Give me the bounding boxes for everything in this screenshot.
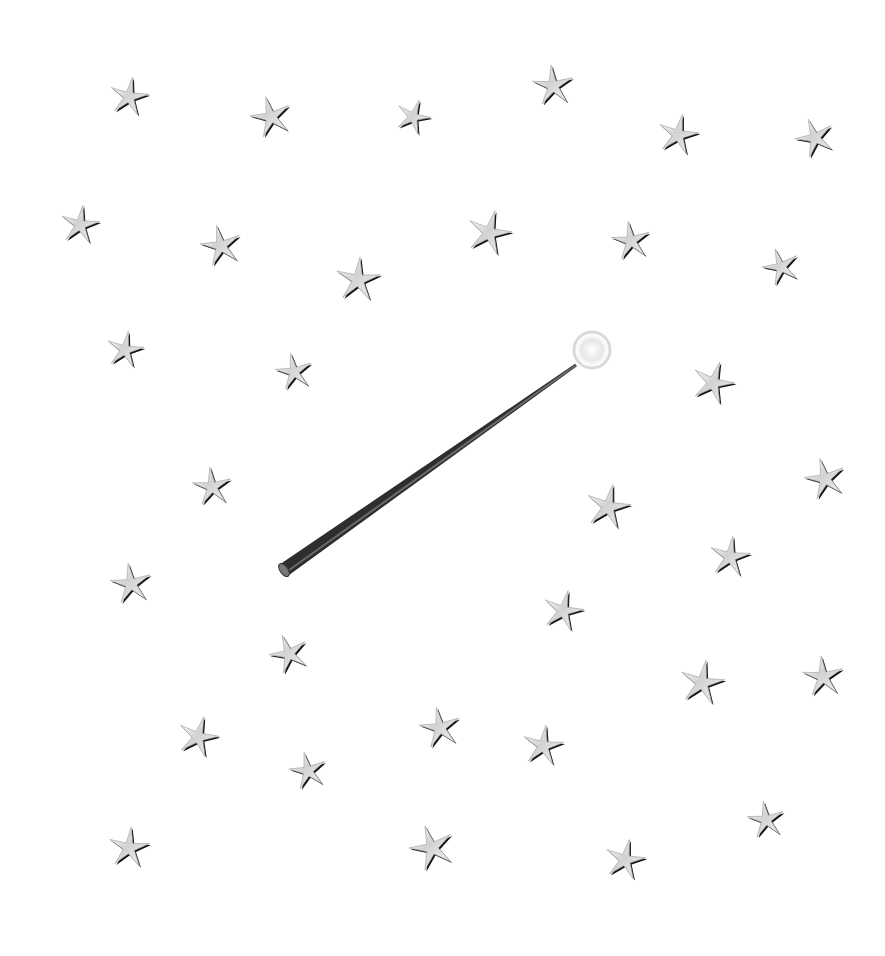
- star-icon: [803, 656, 844, 696]
- star-icon: [110, 563, 151, 604]
- star-icon: [682, 660, 727, 705]
- star-icon: [409, 826, 452, 871]
- stars-layer: [62, 65, 844, 881]
- wand-illustration: [0, 0, 885, 956]
- star-icon: [419, 707, 460, 748]
- star-icon: [192, 467, 231, 506]
- sparkle-icon: [574, 332, 610, 368]
- star-icon: [711, 536, 752, 577]
- star-icon: [62, 205, 101, 244]
- star-icon: [747, 801, 784, 838]
- star-icon: [524, 725, 565, 766]
- star-icon: [804, 459, 844, 500]
- star-icon: [695, 362, 736, 405]
- star-icon: [470, 211, 514, 256]
- star-icon: [611, 221, 650, 260]
- star-icon: [660, 115, 701, 156]
- star-icon: [398, 100, 432, 136]
- star-icon: [275, 353, 312, 390]
- star-icon: [181, 717, 221, 758]
- star-icon: [337, 257, 382, 301]
- star-icon: [110, 827, 151, 868]
- star-icon: [108, 331, 145, 368]
- star-icon: [269, 635, 307, 675]
- magic-wand: [276, 332, 610, 578]
- star-icon: [111, 77, 150, 116]
- star-icon: [795, 119, 833, 159]
- star-icon: [200, 226, 241, 267]
- star-icon: [762, 249, 798, 287]
- star-icon: [250, 97, 290, 138]
- star-icon: [533, 65, 574, 105]
- star-icon: [607, 840, 648, 881]
- star-icon: [588, 485, 632, 530]
- star-icon: [289, 752, 326, 790]
- star-icon: [545, 591, 585, 632]
